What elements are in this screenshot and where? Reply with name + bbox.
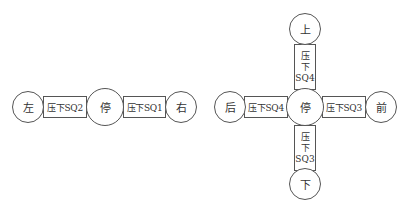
condition-label: 压下SQ3 <box>326 101 362 114</box>
state-label: 下 <box>300 176 311 192</box>
condition-label: 压 <box>301 132 310 143</box>
state-label: 上 <box>300 21 311 37</box>
state-back: 后 <box>214 91 246 123</box>
condition-label: SQ4 <box>295 73 314 84</box>
state-label: 右 <box>176 99 187 115</box>
state-stop: 停 <box>86 88 124 126</box>
condition-label: 下 <box>301 62 310 73</box>
condition-label: 压下SQ4 <box>248 101 284 114</box>
condition-box-sq3: 压下SQ3 <box>322 96 366 118</box>
state-label: 前 <box>376 99 387 115</box>
state-stop: 停 <box>286 88 324 126</box>
state-right: 右 <box>165 91 197 123</box>
condition-label: 压下SQ1 <box>127 101 163 114</box>
condition-box-vertical-sq3: 压 下 SQ3 <box>294 125 316 171</box>
condition-label: 下 <box>301 143 310 154</box>
condition-box-sq2: 压下SQ2 <box>43 96 87 118</box>
condition-label: SQ3 <box>295 154 314 165</box>
state-label: 左 <box>23 99 34 115</box>
state-label: 后 <box>225 99 236 115</box>
state-label: 停 <box>300 99 311 115</box>
state-up: 上 <box>289 13 321 45</box>
condition-box-vertical-sq4: 压 下 SQ4 <box>294 44 316 90</box>
condition-box-sq1: 压下SQ1 <box>123 96 166 118</box>
condition-label: 压 <box>301 51 310 62</box>
condition-label: 压下SQ2 <box>47 101 83 114</box>
state-label: 停 <box>100 99 111 115</box>
condition-box-sq4: 压下SQ4 <box>244 96 288 118</box>
state-down: 下 <box>289 168 321 200</box>
state-left: 左 <box>12 91 44 123</box>
state-forward: 前 <box>365 91 397 123</box>
